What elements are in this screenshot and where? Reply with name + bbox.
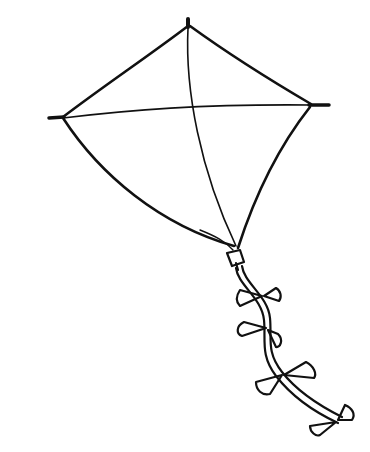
tail-bow-3	[256, 362, 315, 394]
kite-illustration	[0, 0, 370, 452]
kite-tail	[236, 266, 342, 423]
tail-bow-2	[238, 322, 281, 347]
cross-spars	[49, 19, 329, 246]
kite-frame	[63, 26, 311, 248]
kite-drawing-canvas: Black-and-white outline drawing of a dia…	[0, 0, 370, 452]
